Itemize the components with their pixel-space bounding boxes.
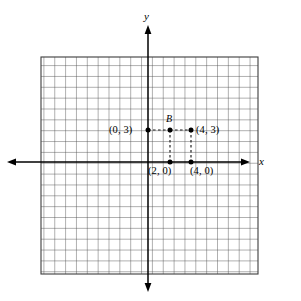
coordinate-plane-figure: (0, 3) B (4, 3) (2, 0) (4, 0) x y (0, 0, 301, 301)
coordinate-plane-canvas (0, 0, 301, 301)
point-4-3 (189, 128, 194, 133)
point-label-4-0: (4, 0) (190, 166, 213, 177)
y-axis-down-arrow-icon (145, 283, 152, 292)
x-axis-left-arrow-icon (7, 159, 16, 166)
point-0-3 (146, 128, 151, 133)
point-label-0-3: (0, 3) (109, 125, 132, 136)
y-axis-label: y (144, 11, 149, 22)
point-2-0 (168, 160, 173, 165)
point-label-4-3: (4, 3) (196, 125, 219, 136)
point-4-0 (189, 160, 194, 165)
point-B (168, 128, 173, 133)
y-axis-up-arrow-icon (145, 25, 152, 34)
point-label-B: B (166, 114, 172, 124)
x-axis-label: x (259, 156, 264, 167)
point-label-2-0: (2, 0) (148, 166, 171, 177)
